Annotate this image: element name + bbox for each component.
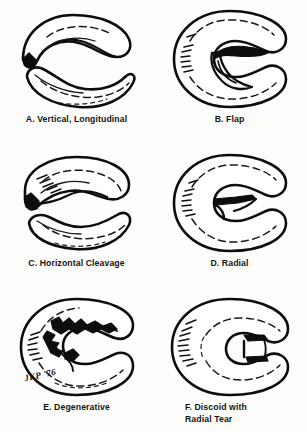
panel-caption-c: C. Horizontal Cleavage xyxy=(0,258,153,270)
panel-degenerative: JKP '76 E. Degenerative xyxy=(0,288,153,432)
meniscus-illustration-discoid xyxy=(153,288,306,406)
panel-caption-d: D. Radial xyxy=(153,258,306,270)
meniscal-tear-figure: A. Vertical, Longitudinal xyxy=(0,0,307,432)
caption-line: B. Flap xyxy=(153,114,306,126)
caption-line: D. Radial xyxy=(153,258,306,270)
panel-caption-f: F. Discoid with Radial Tear xyxy=(153,402,306,425)
caption-line: C. Horizontal Cleavage xyxy=(0,258,153,270)
panel-caption-e: E. Degenerative xyxy=(0,402,153,414)
meniscus-illustration-radial xyxy=(153,144,306,262)
panel-caption-b: B. Flap xyxy=(153,114,306,126)
panel-radial: D. Radial xyxy=(153,144,306,288)
caption-line: E. Degenerative xyxy=(0,402,153,414)
panel-vertical-longitudinal: A. Vertical, Longitudinal xyxy=(0,0,153,144)
caption-line: A. Vertical, Longitudinal xyxy=(0,114,153,126)
panel-caption-a: A. Vertical, Longitudinal xyxy=(0,114,153,126)
panel-discoid-radial-tear: F. Discoid with Radial Tear xyxy=(153,288,306,432)
meniscus-illustration-flap xyxy=(153,0,306,118)
meniscus-illustration-horizontal-cleavage xyxy=(0,144,153,262)
meniscus-illustration-degenerative xyxy=(0,288,153,406)
panel-horizontal-cleavage: C. Horizontal Cleavage xyxy=(0,144,153,288)
panel-flap: B. Flap xyxy=(153,0,306,144)
caption-line: Radial Tear xyxy=(185,414,306,426)
meniscus-illustration-vertical-longitudinal xyxy=(0,0,153,118)
caption-line: F. Discoid with xyxy=(185,402,306,414)
